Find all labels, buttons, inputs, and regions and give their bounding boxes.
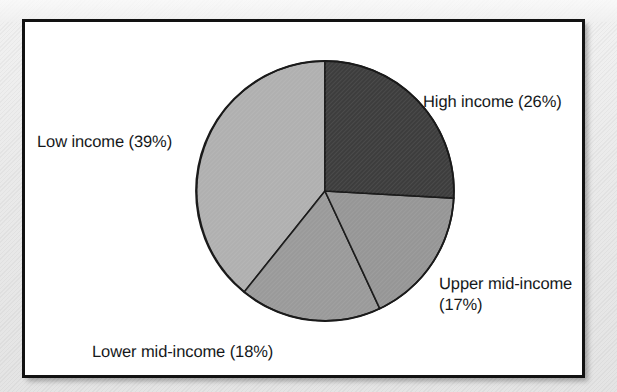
pie-chart-svg	[25, 22, 582, 375]
scanned-page-background: High income (26%) Low income (39%) Upper…	[0, 0, 617, 392]
pie-chart	[25, 22, 582, 375]
pie-label-lower-mid-income: Lower mid-income (18%)	[92, 342, 342, 363]
figure-frame: High income (26%) Low income (39%) Upper…	[22, 19, 585, 378]
pie-label-upper-mid-income: Upper mid-income (17%)	[439, 274, 599, 317]
pie-label-low-income: Low income (39%)	[37, 132, 237, 153]
pie-slice-high-income-texture	[325, 61, 454, 198]
pie-label-high-income: High income (26%)	[423, 92, 613, 113]
